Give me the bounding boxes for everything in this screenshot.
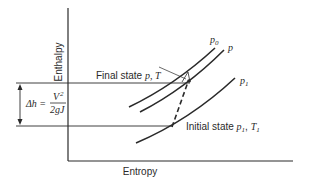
delta-h-lhs: Δh = [25, 98, 46, 109]
final-state-label: Final state p, T [96, 70, 162, 81]
initial-state-label: Initial state p1, T1 [186, 121, 260, 134]
enthalpy-entropy-diagram: Enthalpy Entropy Δh = V2 2gJ p0 p p1 Fin… [0, 0, 310, 182]
final-state-leader [159, 67, 186, 79]
label-p0: p0 [209, 34, 219, 47]
delta-h-numerator: V2 [53, 90, 64, 102]
delta-h-arrow-icon [18, 84, 23, 125]
final-state-point [187, 79, 191, 83]
isobar-p [140, 50, 224, 112]
label-p1: p1 [239, 75, 249, 88]
y-axis-label: Enthalpy [53, 43, 64, 82]
x-axis-label: Entropy [123, 166, 157, 177]
label-p: p [227, 42, 233, 53]
delta-h-denominator: 2gJ [50, 104, 65, 115]
